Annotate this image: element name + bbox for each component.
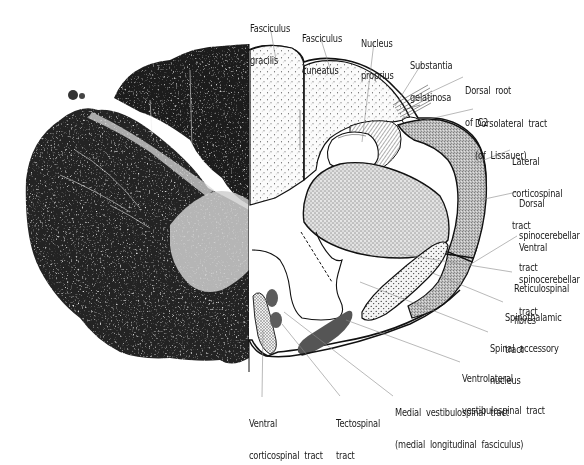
- label-fasciculus-gracilis: Fasciculus gracilis: [250, 3, 290, 88]
- photo-root-fragment: [68, 90, 78, 100]
- tectospinal-oval-1: [266, 289, 278, 307]
- label-nucleus-proprius: Nucleus proprius: [361, 18, 394, 103]
- tectospinal-oval-2: [270, 312, 282, 328]
- label-fasciculus-cuneatus: Fasciculus cuneatus: [302, 13, 342, 98]
- histology-section: [0, 0, 249, 431]
- label-tectospinal-tract: Tectospinal tract: [336, 398, 380, 465]
- label-medial-vestibulospinal-tract: Medial vestibulospinal tract (medial lon…: [395, 387, 523, 465]
- label-ventral-corticospinal-tract: Ventral corticospinal tract: [249, 398, 323, 465]
- label-substantia-gelatinosa: Substantia gelatinosa: [410, 40, 452, 125]
